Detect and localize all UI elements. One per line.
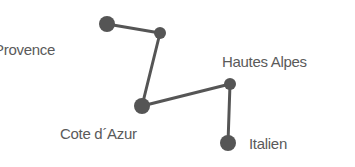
node-italien <box>220 135 236 151</box>
label-provence: Provence <box>0 42 55 57</box>
edge-n4-n5 <box>228 84 230 143</box>
node-provence <box>99 16 115 32</box>
edge-n1-n2 <box>107 24 160 33</box>
node-hautes-alpes <box>224 78 236 90</box>
label-hautes-alpes: Hautes Alpes <box>222 54 307 69</box>
node-cote-dazur <box>134 98 150 114</box>
label-cote-dazur: Cote d´Azur <box>60 126 137 141</box>
edge-n2-n3 <box>142 33 160 106</box>
node-waypoint <box>154 27 166 39</box>
route-diagram <box>0 0 355 167</box>
label-italien: Italien <box>249 136 287 151</box>
edge-n3-n4 <box>142 84 230 106</box>
